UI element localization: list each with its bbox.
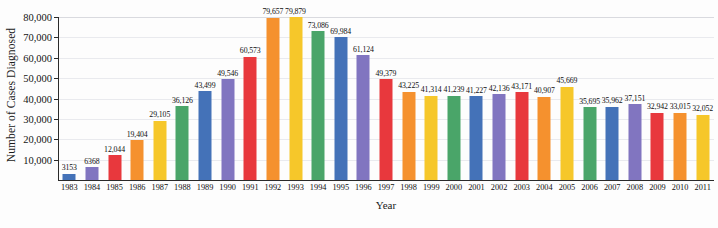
bar-value-label: 33,015 xyxy=(670,102,691,111)
y-tick-label: 40,000 xyxy=(0,93,52,104)
bar-slot: 32,942 xyxy=(646,17,669,180)
bar[interactable] xyxy=(357,55,370,180)
bar-value-label: 41,314 xyxy=(421,85,442,94)
bar[interactable] xyxy=(131,140,144,180)
bar[interactable] xyxy=(606,107,619,180)
bar-slot: 42,136 xyxy=(488,17,511,180)
bar[interactable] xyxy=(402,92,415,180)
bar[interactable] xyxy=(470,96,483,180)
bar-slot: 40,907 xyxy=(533,17,556,180)
bar[interactable] xyxy=(221,79,234,180)
bar-slot: 37,151 xyxy=(624,17,647,180)
bar-slot: 3153 xyxy=(58,17,81,180)
bar-slot: 6368 xyxy=(81,17,104,180)
bar-value-label: 43,225 xyxy=(398,81,419,90)
bar[interactable] xyxy=(334,37,347,180)
x-axis-tick-labels: 1983198419851986198719881989199019911992… xyxy=(58,183,714,199)
bar[interactable] xyxy=(379,79,392,180)
bar-value-label: 43,171 xyxy=(511,82,532,91)
bar[interactable] xyxy=(651,113,664,180)
bar-value-label: 35,962 xyxy=(602,96,623,105)
bar-value-label: 3153 xyxy=(62,163,77,172)
x-tick-label: 1997 xyxy=(378,183,395,192)
x-tick-label: 1992 xyxy=(265,183,282,192)
x-axis-title: Year xyxy=(58,199,714,211)
bar-chart: Number of Cases Diagnosed 3153636812,044… xyxy=(0,0,718,228)
y-tick-label: 50,000 xyxy=(0,73,52,84)
x-tick-label: 2004 xyxy=(536,183,553,192)
bar-value-label: 45,669 xyxy=(557,76,578,85)
bar[interactable] xyxy=(266,18,279,180)
bar-slot: 35,962 xyxy=(601,17,624,180)
x-tick-label: 2008 xyxy=(627,183,644,192)
bar-value-label: 32,052 xyxy=(692,104,713,113)
bar[interactable] xyxy=(108,155,121,180)
bar-slot: 49,546 xyxy=(216,17,239,180)
bar[interactable] xyxy=(63,174,76,180)
bar-value-label: 73,086 xyxy=(308,21,329,30)
x-tick-label: 1994 xyxy=(310,183,327,192)
bar-slot: 69,984 xyxy=(329,17,352,180)
bar-value-label: 60,573 xyxy=(240,46,261,55)
x-tick-label: 2009 xyxy=(649,183,666,192)
bar-slot: 41,227 xyxy=(465,17,488,180)
bar-value-label: 42,136 xyxy=(489,84,510,93)
bar-value-label: 41,239 xyxy=(443,85,464,94)
bar-value-label: 29,105 xyxy=(149,110,170,119)
bar-value-label: 32,942 xyxy=(647,102,668,111)
y-tick-label: 20,000 xyxy=(0,134,52,145)
bar[interactable] xyxy=(628,104,641,180)
bar[interactable] xyxy=(447,96,460,180)
bar[interactable] xyxy=(289,17,302,180)
bar-slot: 73,086 xyxy=(307,17,330,180)
x-tick-label: 2005 xyxy=(559,183,576,192)
y-tick-label: 60,000 xyxy=(0,52,52,63)
x-axis-line xyxy=(58,180,714,181)
bar-slot: 43,171 xyxy=(510,17,533,180)
y-tick-label: 30,000 xyxy=(0,113,52,124)
bar-value-label: 12,044 xyxy=(104,145,125,154)
x-tick-label: 2007 xyxy=(604,183,621,192)
bar-slot: 60,573 xyxy=(239,17,262,180)
bar[interactable] xyxy=(515,92,528,180)
x-tick-label: 2002 xyxy=(491,183,508,192)
bar-slot: 43,499 xyxy=(194,17,217,180)
bar-value-label: 79,879 xyxy=(285,7,306,16)
bar-slot: 33,015 xyxy=(669,17,692,180)
bar-slot: 61,124 xyxy=(352,17,375,180)
bar-value-label: 79,657 xyxy=(262,7,283,16)
bar[interactable] xyxy=(696,115,709,180)
bar-slot: 36,126 xyxy=(171,17,194,180)
x-tick-label: 1987 xyxy=(151,183,168,192)
bar-value-label: 43,499 xyxy=(195,81,216,90)
bar-slot: 32,052 xyxy=(691,17,714,180)
bars-layer: 3153636812,04419,40429,10536,12643,49949… xyxy=(58,17,714,180)
x-tick-label: 2001 xyxy=(468,183,485,192)
x-tick-label: 1999 xyxy=(423,183,440,192)
bar[interactable] xyxy=(425,96,438,180)
bar[interactable] xyxy=(244,57,257,180)
bar-slot: 29,105 xyxy=(148,17,171,180)
bar[interactable] xyxy=(153,121,166,180)
bar[interactable] xyxy=(85,167,98,180)
bar[interactable] xyxy=(674,113,687,180)
bar[interactable] xyxy=(583,107,596,180)
bar[interactable] xyxy=(493,94,506,180)
x-tick-label: 1989 xyxy=(197,183,214,192)
x-tick-label: 2006 xyxy=(581,183,598,192)
x-tick-label: 1998 xyxy=(400,183,417,192)
bar-slot: 43,225 xyxy=(397,17,420,180)
bar-value-label: 49,546 xyxy=(217,69,238,78)
bar[interactable] xyxy=(538,97,551,180)
bar[interactable] xyxy=(176,106,189,180)
x-tick-label: 2000 xyxy=(446,183,463,192)
bar-value-label: 6368 xyxy=(84,157,99,166)
bar[interactable] xyxy=(560,87,573,180)
x-tick-label: 2003 xyxy=(513,183,530,192)
bar[interactable] xyxy=(312,31,325,180)
bar-value-label: 36,126 xyxy=(172,96,193,105)
bar-slot: 45,669 xyxy=(556,17,579,180)
x-tick-label: 2010 xyxy=(672,183,689,192)
bar-slot: 41,239 xyxy=(443,17,466,180)
bar[interactable] xyxy=(199,91,212,180)
